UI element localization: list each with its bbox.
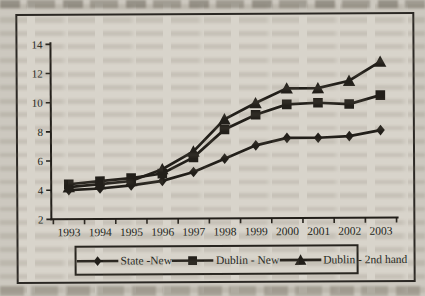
x-tick-label: 1999 [245,225,268,237]
legend-item-state-new: State -New [77,254,172,267]
triangle-marker-icon [279,253,321,266]
x-tick-label: 1993 [58,226,81,238]
legend-item-dublin-new: Dublin - New [172,253,279,267]
x-tick-label: 1994 [89,226,112,238]
x-tick-label: 2003 [370,225,393,237]
scanned-page: 2468101214199319941995199619971998199920… [0,0,425,296]
legend-item-dublin-2nd-hand: Dublin - 2nd hand [279,252,407,266]
legend-label-state-new: State -New [121,254,172,266]
series-markers-2 [62,55,387,192]
house-price-line-chart: 2468101214199319941995199619971998199920… [17,14,413,282]
square-marker-icon [172,254,214,267]
chart-frame: 2468101214199319941995199619971998199920… [15,12,415,284]
series-line-1 [68,95,380,184]
x-tick-label: 1996 [151,226,174,238]
series-markers-0 [64,125,385,196]
y-tick-label: 8 [37,126,43,138]
legend-label-dublin-2nd-hand: Dublin - 2nd hand [323,253,407,265]
page-bleedthrough-bottom [0,286,425,296]
x-axis [50,218,398,220]
y-tick-label: 4 [38,184,44,196]
x-tick-label: 2000 [276,225,299,237]
y-tick-label: 12 [32,68,43,80]
page-bleedthrough-top [0,0,425,8]
y-tick-label: 14 [31,38,43,50]
series-markers-1 [64,90,386,189]
x-tick-label: 1998 [214,225,237,237]
x-tick-label: 2002 [338,225,361,237]
y-tick-label: 6 [38,155,44,167]
legend-label-dublin-new: Dublin - New [216,254,279,266]
x-tick-label: 1995 [120,226,143,238]
diamond-marker-icon [77,254,119,267]
y-tick-label: 10 [32,97,44,109]
x-tick-label: 2001 [307,225,330,237]
x-tick-label: 1997 [182,226,205,238]
legend: State -New Dublin - New Dublin - 2nd han… [75,244,359,275]
y-tick-label: 2 [38,213,44,225]
